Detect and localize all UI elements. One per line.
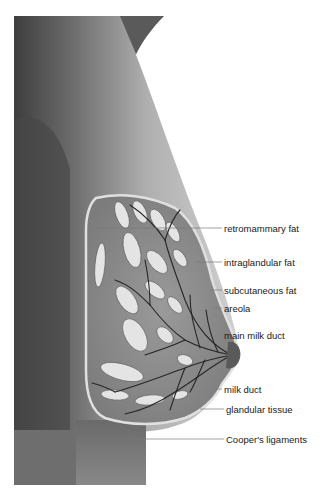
label-milk-duct: milk duct	[224, 384, 261, 395]
label-subcutaneous-fat: subcutaneous fat	[224, 285, 296, 296]
label-glandular-tissue: glandular tissue	[226, 404, 293, 415]
label-intraglandular-fat: intraglandular fat	[224, 257, 295, 268]
label-areola: areola	[224, 303, 250, 314]
breast-cross-section	[86, 195, 240, 424]
label-coopers-ligaments: Cooper's ligaments	[226, 434, 307, 445]
label-retromammary-fat: retromammary fat	[224, 223, 299, 234]
breast-anatomy-illustration	[0, 0, 330, 495]
label-main-milk-duct: main milk duct	[224, 330, 285, 341]
nipple-areola	[226, 342, 240, 369]
